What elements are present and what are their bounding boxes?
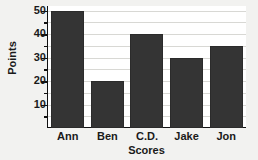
- bar-slot: [88, 6, 128, 128]
- y-axis-tick-label: 10: [16, 99, 46, 110]
- x-axis-tick-label: C.D.: [127, 130, 167, 142]
- x-axis-title: Scores: [47, 144, 246, 156]
- y-axis-tick-label: 40: [16, 28, 46, 39]
- bar[interactable]: [210, 46, 243, 128]
- y-axis-tick-label: 20: [16, 75, 46, 86]
- x-axis-tick-label: Ben: [88, 130, 128, 142]
- bar-slot: [127, 6, 167, 128]
- bar-slot: [167, 6, 207, 128]
- bar-slot: [206, 6, 246, 128]
- bar[interactable]: [170, 58, 203, 128]
- bar-chart: Points 1020304050 AnnBenC.D.JakeJon Scor…: [0, 0, 258, 160]
- x-axis-tick-label: Jon: [206, 130, 246, 142]
- x-axis-tick-label: Jake: [167, 130, 207, 142]
- bar[interactable]: [130, 34, 163, 128]
- y-axis-tick-label: 50: [16, 5, 46, 16]
- y-axis-tick-label: 30: [16, 52, 46, 63]
- x-axis-tick-labels: AnnBenC.D.JakeJon: [48, 130, 246, 142]
- bar-slot: [48, 6, 88, 128]
- bar[interactable]: [51, 11, 84, 128]
- x-axis-tick-label: Ann: [48, 130, 88, 142]
- bar[interactable]: [91, 81, 124, 128]
- bar-series: [48, 6, 246, 128]
